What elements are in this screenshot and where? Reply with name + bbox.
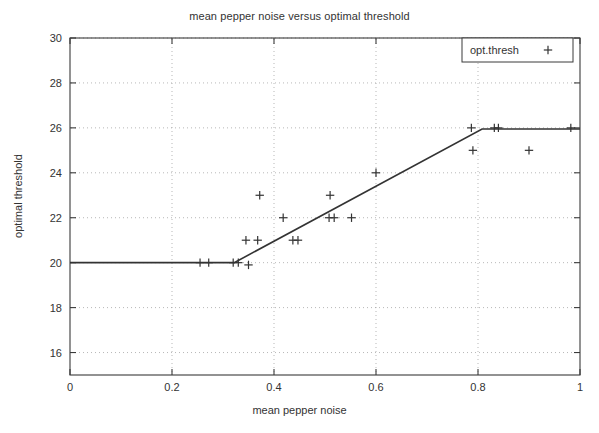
- data-point-marker: [253, 236, 261, 244]
- data-point-marker: [279, 214, 287, 222]
- fit-line-path: [70, 129, 580, 263]
- data-point-marker: [372, 169, 380, 177]
- axis-ticks: [70, 38, 580, 375]
- data-point-marker: [294, 236, 302, 244]
- data-point-marker: [494, 124, 502, 132]
- y-tick-label: 16: [50, 347, 62, 359]
- data-point-marker: [256, 191, 264, 199]
- data-point-marker: [469, 146, 477, 154]
- data-point-marker: [567, 124, 575, 132]
- data-point-marker: [467, 124, 475, 132]
- chart-figure: mean pepper noise versus optimal thresho…: [0, 0, 599, 433]
- gridlines: [71, 38, 579, 374]
- x-tick-label: 0: [67, 381, 73, 393]
- data-point-marker: [244, 261, 252, 269]
- data-point-marker: [347, 214, 355, 222]
- x-tick-label: 0.4: [266, 381, 281, 393]
- tick-labels: 161820222426283000.20.40.60.81: [50, 32, 583, 393]
- fit-line: [70, 129, 580, 263]
- data-markers: [196, 124, 575, 269]
- legend-label: opt.thresh: [470, 44, 519, 56]
- data-point-marker: [205, 258, 213, 266]
- data-point-marker: [242, 236, 250, 244]
- y-tick-label: 18: [50, 302, 62, 314]
- data-point-marker: [326, 191, 334, 199]
- data-point-marker: [196, 258, 204, 266]
- y-tick-label: 30: [50, 32, 62, 44]
- x-tick-label: 0.2: [164, 381, 179, 393]
- x-tick-label: 0.8: [470, 381, 485, 393]
- x-tick-label: 1: [577, 381, 583, 393]
- data-point-marker: [330, 214, 338, 222]
- y-tick-label: 28: [50, 77, 62, 89]
- y-tick-label: 24: [50, 167, 62, 179]
- y-tick-label: 26: [50, 122, 62, 134]
- y-tick-label: 20: [50, 257, 62, 269]
- x-tick-label: 0.6: [368, 381, 383, 393]
- data-point-marker: [525, 146, 533, 154]
- y-tick-label: 22: [50, 212, 62, 224]
- plot-canvas: 161820222426283000.20.40.60.81 opt.thres…: [0, 0, 599, 433]
- legend: opt.thresh: [462, 38, 573, 62]
- plot-frame: [70, 38, 580, 375]
